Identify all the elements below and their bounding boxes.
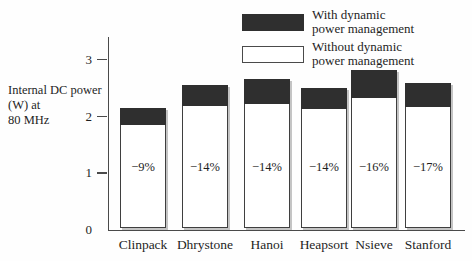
bar-segment-with-dpm-nsieve xyxy=(351,70,397,98)
bar-percent-label-stanford: −17% xyxy=(406,160,450,175)
x-axis-label-stanford: Stanford xyxy=(386,237,470,253)
bar-hanoi: −14% xyxy=(244,79,290,228)
y-tick-label-1: 1 xyxy=(70,164,92,182)
bar-percent-label-hanoi: −14% xyxy=(245,160,289,175)
bar-segment-with-dpm-clinpack xyxy=(120,108,166,125)
bar-percent-label-heapsort: −14% xyxy=(302,160,346,175)
y-tick-mark-3 xyxy=(97,59,107,61)
y-tick-mark-1 xyxy=(97,172,107,174)
bar-heapsort: −14% xyxy=(301,88,347,228)
y-tick-label-3: 3 xyxy=(70,51,92,69)
bar-segment-with-dpm-dhrystone xyxy=(182,85,228,106)
bar-segment-with-dpm-heapsort xyxy=(301,88,347,109)
bar-clinpack: −9% xyxy=(120,108,166,228)
bar-stanford: −17% xyxy=(405,83,451,228)
y-tick-mark-2 xyxy=(97,116,107,118)
y-tick-label-0: 0 xyxy=(70,221,92,239)
bar-segment-with-dpm-stanford xyxy=(405,83,451,107)
legend-label-with-dpm: With dynamic power management xyxy=(312,8,414,36)
y-axis-label-line1: Internal DC power xyxy=(8,83,102,98)
bar-percent-label-nsieve: −16% xyxy=(352,160,396,175)
y-tick-label-2: 2 xyxy=(70,108,92,126)
bar-segment-with-dpm-hanoi xyxy=(244,79,290,104)
bar-percent-label-clinpack: −9% xyxy=(121,160,165,175)
bar-dhrystone: −14% xyxy=(182,85,228,228)
power-bar-chart-figure: Internal DC power (W) at 80 MHz With dyn… xyxy=(0,0,472,261)
legend-item-with-dpm: With dynamic power management xyxy=(242,8,414,36)
bar-percent-label-dhrystone: −14% xyxy=(183,160,227,175)
bar-nsieve: −16% xyxy=(351,70,397,228)
legend-swatch-with-dpm-icon xyxy=(242,14,304,31)
